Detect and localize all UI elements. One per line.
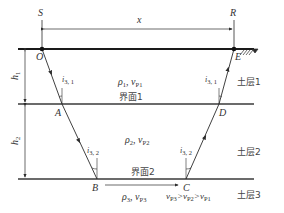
angle-label-A: i3, 1 <box>62 76 74 86</box>
velocity-relation: vP3>vP2>vP1 <box>166 192 211 203</box>
ray-DE <box>219 49 234 104</box>
label-h1: h1 <box>10 72 22 80</box>
interface-2-label: 界面2 <box>131 168 155 177</box>
ray-AB <box>62 104 97 179</box>
label-A: A <box>55 108 61 118</box>
label-B: B <box>92 183 98 193</box>
ray-CD <box>186 104 219 179</box>
interface-1-label: 界面1 <box>119 93 143 102</box>
layer3-properties: ρ3, vP3 <box>122 192 146 204</box>
angle-label-C: i3, 2 <box>180 147 192 157</box>
label-x: x <box>137 15 141 25</box>
layer1-properties: ρ1, vP1 <box>118 77 142 89</box>
label-E: E <box>235 52 241 62</box>
label-O: O <box>36 52 43 62</box>
label-R: R <box>230 8 236 18</box>
label-S: S <box>38 8 43 18</box>
ground-hatch-icon <box>240 49 258 55</box>
layer-2-name: 土层2 <box>237 148 261 157</box>
angle-label-D: i3, 1 <box>205 76 217 86</box>
layer2-properties: ρ2, vP2 <box>125 135 149 147</box>
layer-3-name: 土层3 <box>237 191 261 200</box>
ray-OA <box>42 49 62 104</box>
label-h2: h2 <box>10 137 22 145</box>
refraction-diagram <box>0 0 284 213</box>
angle-label-B: i3, 2 <box>87 147 99 157</box>
label-D: D <box>219 108 226 118</box>
layer-1-name: 土层1 <box>237 78 261 87</box>
